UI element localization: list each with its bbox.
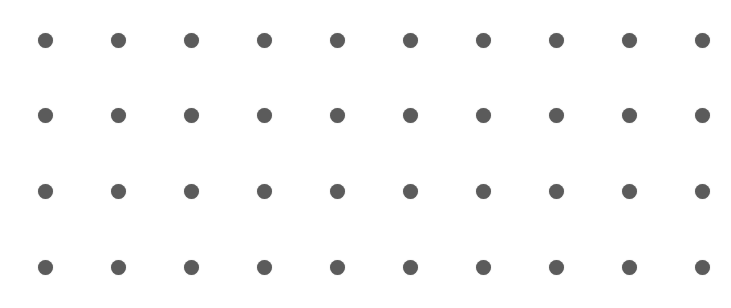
grid-dot xyxy=(257,33,272,48)
grid-dot xyxy=(403,184,418,199)
grid-dot xyxy=(476,108,491,123)
grid-dot xyxy=(695,260,710,275)
dot-grid-canvas xyxy=(0,0,731,308)
grid-dot xyxy=(38,108,53,123)
grid-dot xyxy=(622,260,637,275)
grid-dot xyxy=(549,33,564,48)
grid-dot xyxy=(257,260,272,275)
grid-dot xyxy=(330,33,345,48)
grid-dot xyxy=(695,184,710,199)
grid-dot xyxy=(257,108,272,123)
grid-dot xyxy=(111,33,126,48)
grid-dot xyxy=(695,108,710,123)
grid-dot xyxy=(622,108,637,123)
grid-dot xyxy=(111,184,126,199)
grid-dot xyxy=(549,108,564,123)
grid-dot xyxy=(476,260,491,275)
grid-dot xyxy=(403,108,418,123)
grid-dot xyxy=(403,260,418,275)
grid-dot xyxy=(330,260,345,275)
grid-dot xyxy=(330,108,345,123)
grid-dot xyxy=(257,184,272,199)
grid-dot xyxy=(476,33,491,48)
grid-dot xyxy=(622,33,637,48)
grid-dot xyxy=(549,184,564,199)
grid-dot xyxy=(38,33,53,48)
grid-dot xyxy=(403,33,418,48)
grid-dot xyxy=(184,184,199,199)
grid-dot xyxy=(38,260,53,275)
grid-dot xyxy=(111,260,126,275)
grid-dot xyxy=(622,184,637,199)
grid-dot xyxy=(184,108,199,123)
grid-dot xyxy=(184,260,199,275)
grid-dot xyxy=(184,33,199,48)
grid-dot xyxy=(549,260,564,275)
grid-dot xyxy=(476,184,491,199)
grid-dot xyxy=(330,184,345,199)
grid-dot xyxy=(695,33,710,48)
grid-dot xyxy=(111,108,126,123)
grid-dot xyxy=(38,184,53,199)
